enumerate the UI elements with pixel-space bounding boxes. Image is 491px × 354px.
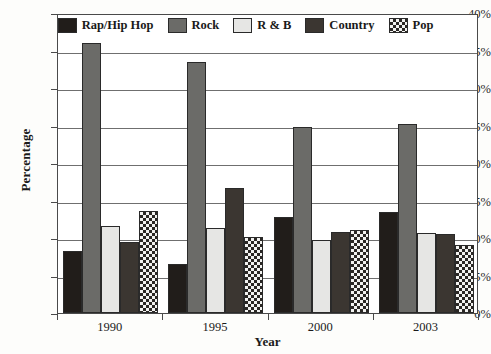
legend-label: R & B [257, 18, 291, 33]
bar-pop-1995 [244, 237, 263, 313]
legend-item[interactable]: R & B [233, 18, 291, 33]
legend-label: Rock [192, 18, 220, 33]
bar-country-1995 [225, 188, 244, 313]
bar-rap-hip-hop-2003 [379, 212, 398, 313]
bar-country-2003 [436, 234, 455, 314]
legend-swatch-icon [168, 18, 187, 33]
x-axis-tick-mark [268, 314, 269, 320]
bar-group [374, 15, 479, 313]
bar-rock-2000 [293, 127, 312, 313]
bar-pop-2003 [455, 245, 474, 313]
bar-r-b-1995 [206, 228, 225, 313]
bar-rock-2003 [398, 124, 417, 313]
legend-item[interactable]: Country [305, 18, 374, 33]
legend-swatch-icon [58, 18, 77, 33]
x-axis-tick-label: 1995 [165, 320, 265, 335]
legend-item[interactable]: Rap/Hip Hop [58, 18, 154, 33]
legend-swatch-icon [389, 18, 408, 33]
bar-group [269, 15, 374, 313]
bar-pop-2000 [350, 230, 369, 313]
bar-r-b-2000 [312, 240, 331, 313]
legend-label: Rap/Hip Hop [82, 18, 154, 33]
legend-label: Pop [413, 18, 434, 33]
x-axis-tick-mark [57, 314, 58, 320]
bar-rap-hip-hop-1995 [168, 264, 187, 314]
bar-pop-1990 [139, 211, 158, 313]
x-axis-tick-label: 2003 [375, 320, 475, 335]
x-axis-tick-mark [162, 314, 163, 320]
bar-group [58, 15, 163, 313]
legend-label: Country [329, 18, 374, 33]
bar-rock-1995 [187, 62, 206, 313]
x-axis-tick-mark [373, 314, 374, 320]
legend-item[interactable]: Pop [389, 18, 434, 33]
legend-item[interactable]: Rock [168, 18, 220, 33]
y-axis-title: Percentage [18, 90, 34, 230]
legend-swatch-icon [305, 18, 324, 33]
bar-country-2000 [331, 232, 350, 313]
chart-legend: Rap/Hip HopRockR & BCountryPop [0, 18, 491, 33]
x-axis-tick-label: 2000 [270, 320, 370, 335]
x-axis-tick-label: 1990 [60, 320, 160, 335]
legend-swatch-icon [233, 18, 252, 33]
plot-area [57, 14, 478, 314]
bar-group [163, 15, 268, 313]
x-axis-tick-mark [478, 314, 479, 320]
bar-rock-1990 [82, 43, 101, 313]
bar-country-1990 [120, 242, 139, 313]
chart-container: Percentage 0%5%10%15%20%25%30%35%40% 199… [0, 0, 491, 354]
bar-rap-hip-hop-1990 [63, 251, 82, 313]
bar-r-b-2003 [417, 233, 436, 313]
x-axis-title: Year [57, 334, 478, 350]
bar-r-b-1990 [101, 226, 120, 313]
bar-rap-hip-hop-2000 [274, 217, 293, 313]
